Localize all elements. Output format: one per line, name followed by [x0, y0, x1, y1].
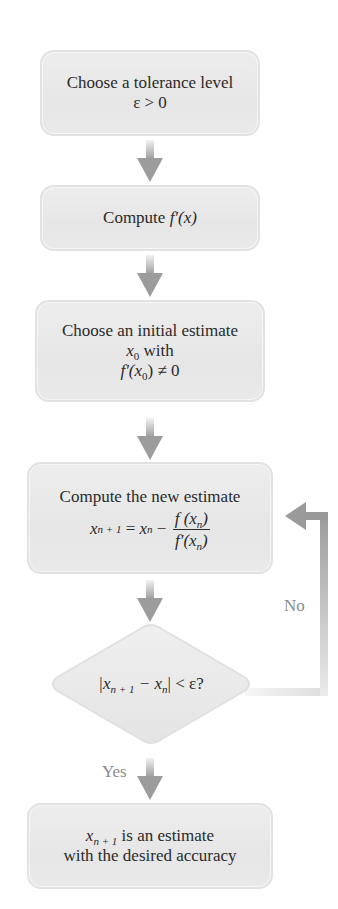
step-initial-estimate-line2: x0 with: [126, 341, 174, 361]
yes-label: Yes: [102, 762, 127, 782]
step-initial-estimate-line3: f′(x0) ≠ 0: [120, 361, 179, 381]
expr: − x: [134, 674, 162, 693]
down-arrow-icon: [137, 418, 163, 460]
expr: | < ε?: [168, 674, 204, 693]
down-arrow-icon: [137, 758, 163, 800]
var-x: x: [126, 341, 134, 360]
expr: ): [202, 531, 208, 550]
step-result-line2: with the desired accuracy: [63, 846, 236, 866]
step-choose-tolerance-line1: Choose a tolerance level: [67, 73, 234, 93]
newton-formula: xn + 1 = xn − f (xn) f′(xn): [90, 509, 210, 550]
step-result-line1: xn + 1 is an estimate: [86, 826, 214, 846]
step-initial-estimate-line1: Choose an initial estimate: [62, 321, 238, 341]
step-choose-tolerance: Choose a tolerance level ε > 0: [40, 50, 260, 136]
equals-sign: =: [121, 519, 139, 539]
step-compute-derivative: Compute f′(x): [40, 185, 260, 251]
derivative-expression: f′(x): [170, 208, 197, 227]
no-label: No: [284, 596, 305, 616]
down-arrow-icon: [137, 580, 163, 622]
down-arrow-icon: [137, 255, 163, 297]
expr: f′(x: [120, 361, 142, 380]
decision-convergence-check: |xn + 1 − xn| < ε?: [48, 622, 254, 746]
step-initial-estimate: Choose an initial estimate x0 with f′(x0…: [35, 300, 265, 402]
step-choose-tolerance-line2: ε > 0: [133, 93, 167, 113]
fraction-denominator: f′(xn): [175, 530, 208, 550]
decision-condition: |xn + 1 − xn| < ε?: [48, 674, 254, 694]
expr: f (x: [175, 509, 197, 528]
fraction-numerator: f (xn): [173, 509, 210, 530]
step-compute-derivative-text: Compute f′(x): [103, 208, 197, 228]
subscript: n + 1: [111, 683, 135, 695]
step-compute-new-estimate-line1: Compute the new estimate: [60, 487, 241, 507]
minus-sign: −: [153, 519, 171, 539]
var-x: x: [140, 519, 148, 539]
expr: f′(x: [175, 531, 197, 550]
step-compute-derivative-prefix: Compute: [103, 208, 170, 227]
text: ) ≠ 0: [148, 361, 180, 380]
expr: ): [202, 509, 208, 528]
text: with: [139, 341, 173, 360]
text: is an estimate: [117, 826, 214, 845]
step-compute-new-estimate: Compute the new estimate xn + 1 = xn − f…: [27, 462, 273, 574]
down-arrow-icon: [137, 140, 163, 182]
expr: |x: [98, 674, 110, 693]
fraction: f (xn) f′(xn): [173, 509, 210, 550]
var-x: x: [90, 519, 98, 539]
step-result: xn + 1 is an estimate with the desired a…: [27, 803, 273, 889]
